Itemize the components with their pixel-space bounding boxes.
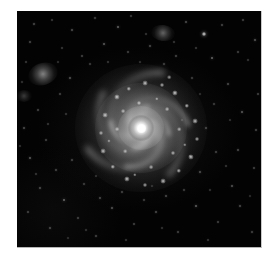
astronomical-image-plate — [17, 11, 262, 248]
screenshot-viewport — [0, 0, 278, 258]
image-caption — [0, 0, 1, 1]
galaxy-nucleus-core — [137, 124, 146, 133]
